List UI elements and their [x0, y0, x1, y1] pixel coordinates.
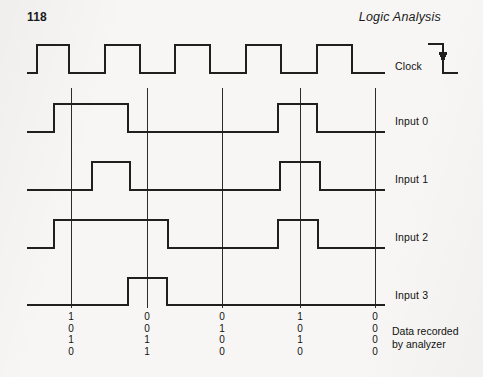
trace-label-clock: Clock — [395, 60, 422, 72]
data-bit-c4-r2: 0 — [287, 323, 313, 335]
trace-label-input-1: Input 1 — [395, 173, 428, 185]
trace-label-input-0: Input 0 — [395, 115, 428, 127]
trace-label-input-2: Input 2 — [395, 231, 428, 243]
data-bit-c3-r4: 0 — [209, 346, 235, 358]
data-bit-c2-r2: 0 — [134, 323, 160, 335]
data-bit-c4-r1: 1 — [287, 311, 313, 323]
data-column-5: 0000 — [362, 311, 388, 357]
clock-falling-edge-icon — [428, 44, 458, 73]
data-bit-c4-r4: 0 — [287, 346, 313, 358]
data-bit-c5-r4: 0 — [362, 346, 388, 358]
data-bit-c5-r1: 0 — [362, 311, 388, 323]
data-bit-c3-r3: 0 — [209, 334, 235, 346]
caption-line-2: by analyzer — [392, 338, 459, 351]
data-bit-c2-r1: 0 — [134, 311, 160, 323]
data-bit-c1-r3: 1 — [58, 334, 84, 346]
sample-line-group — [71, 88, 375, 308]
data-bit-c2-r4: 1 — [134, 346, 160, 358]
data-bit-c5-r2: 0 — [362, 323, 388, 335]
waveform-input-3 — [27, 278, 385, 305]
waveform-input-1 — [27, 162, 385, 190]
data-bit-c1-r4: 0 — [58, 346, 84, 358]
data-column-1: 1010 — [58, 311, 84, 357]
data-bit-c3-r2: 1 — [209, 323, 235, 335]
data-column-3: 0100 — [209, 311, 235, 357]
waveform-clock — [27, 45, 385, 73]
data-bit-c1-r1: 1 — [58, 311, 84, 323]
data-bit-c1-r2: 0 — [58, 323, 84, 335]
waveform-input-2 — [27, 220, 385, 248]
book-page: 118 Logic Analysis Clock Input 0 Input 1… — [0, 0, 483, 377]
trace-label-input-3: Input 3 — [395, 289, 428, 301]
waveform-input-0 — [27, 104, 385, 132]
data-bit-c5-r3: 0 — [362, 334, 388, 346]
data-bit-c4-r3: 1 — [287, 334, 313, 346]
waveform-group — [27, 45, 385, 305]
data-column-4: 1010 — [287, 311, 313, 357]
data-bit-c3-r1: 0 — [209, 311, 235, 323]
recorded-data-caption: Data recorded by analyzer — [392, 325, 459, 350]
data-column-2: 0011 — [134, 311, 160, 357]
data-bit-c2-r3: 1 — [134, 334, 160, 346]
caption-line-1: Data recorded — [392, 325, 459, 338]
